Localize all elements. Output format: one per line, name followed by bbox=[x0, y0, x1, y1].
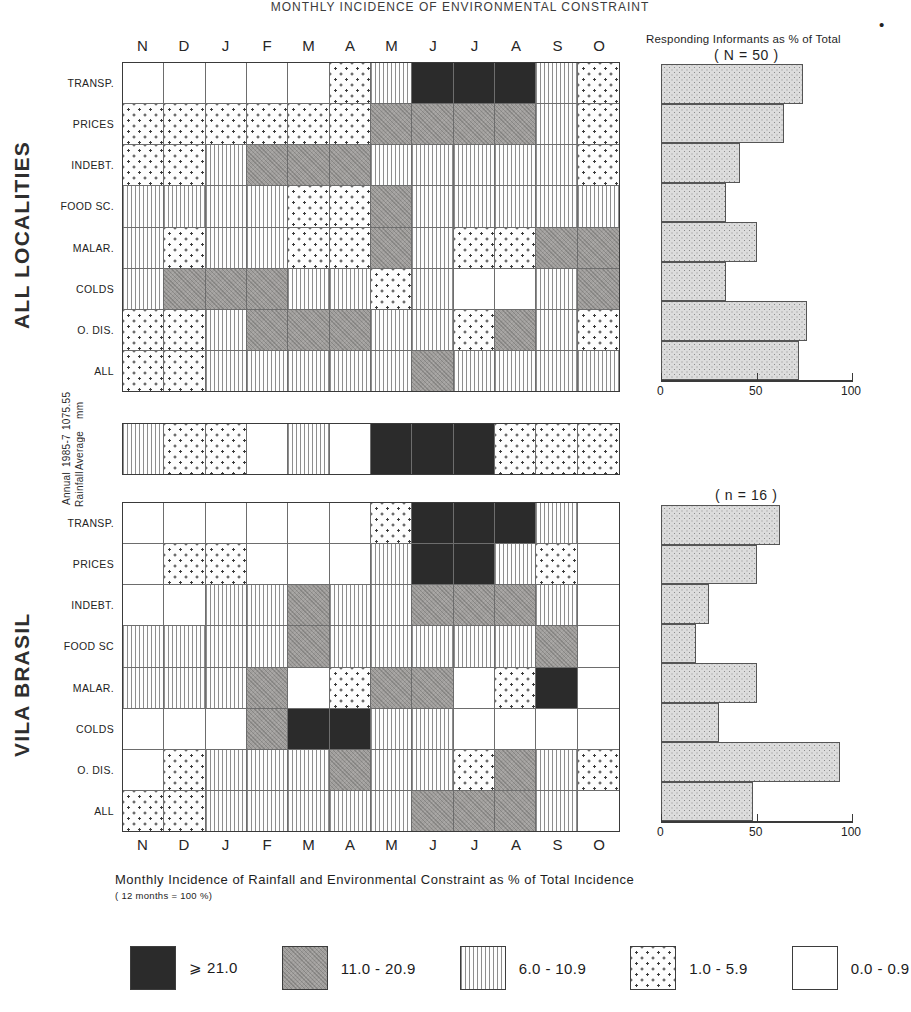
heatmap-cell bbox=[123, 544, 164, 585]
month-label-9: A bbox=[496, 836, 538, 853]
month-header-top: NDJFMAMJJASO bbox=[122, 37, 620, 54]
heatmap-cell bbox=[371, 145, 412, 186]
heatmap-cell bbox=[578, 750, 619, 791]
heatmap-cell bbox=[247, 626, 288, 667]
heatmap-cell bbox=[164, 585, 205, 626]
heatmap-cell bbox=[164, 269, 205, 310]
bar bbox=[661, 782, 753, 822]
bar-chart-all-localities bbox=[661, 64, 891, 380]
heatmap-cell bbox=[578, 351, 619, 391]
month-label-11: O bbox=[579, 836, 621, 853]
heatmap-cell bbox=[206, 104, 247, 145]
heatmap-cell bbox=[536, 351, 577, 391]
bar-axis-label-50-top: 50 bbox=[749, 384, 762, 398]
rainfall-cell bbox=[288, 424, 329, 474]
row-label-6: O. DIS. bbox=[40, 310, 120, 351]
month-label-9: A bbox=[496, 37, 538, 54]
heatmap-cell bbox=[412, 228, 453, 269]
heatmap-cell bbox=[330, 791, 371, 831]
heatmap-cell bbox=[123, 228, 164, 269]
heatmap-cell bbox=[330, 544, 371, 585]
heatmap-cell bbox=[247, 228, 288, 269]
bar-row bbox=[661, 262, 891, 302]
heatmap-cell bbox=[288, 750, 329, 791]
heatmap-grid-vila-brasil bbox=[122, 502, 620, 832]
heatmap-cell bbox=[536, 750, 577, 791]
rainfall-cell bbox=[536, 424, 577, 474]
heatmap-cell bbox=[206, 791, 247, 831]
heatmap-cell bbox=[371, 626, 412, 667]
heatmap-cell bbox=[288, 310, 329, 351]
heatmap-cell bbox=[330, 626, 371, 667]
heatmap-cell bbox=[454, 544, 495, 585]
heatmap-cell bbox=[330, 503, 371, 544]
heatmap-cell bbox=[123, 351, 164, 391]
heatmap-cell bbox=[123, 750, 164, 791]
heatmap-cell bbox=[412, 585, 453, 626]
heatmap-cell bbox=[164, 709, 205, 750]
month-label-4: M bbox=[288, 37, 330, 54]
rainfall-cell bbox=[412, 424, 453, 474]
bar-row bbox=[661, 505, 891, 545]
heatmap-cell bbox=[206, 709, 247, 750]
heatmap-cell bbox=[495, 585, 536, 626]
bar-row bbox=[661, 104, 891, 144]
heatmap-cell bbox=[495, 63, 536, 104]
rainfall-cell bbox=[578, 424, 619, 474]
heatmap-cell bbox=[206, 63, 247, 104]
month-label-8: J bbox=[454, 836, 496, 853]
heatmap-cell bbox=[578, 104, 619, 145]
heatmap-cell bbox=[371, 351, 412, 391]
heatmap-cell bbox=[288, 269, 329, 310]
heatmap-cell bbox=[371, 310, 412, 351]
month-label-10: S bbox=[537, 37, 579, 54]
heatmap-cell bbox=[164, 668, 205, 709]
legend-swatch-gray bbox=[282, 946, 328, 990]
heatmap-cell bbox=[536, 310, 577, 351]
heatmap-cell bbox=[330, 585, 371, 626]
heatmap-cell bbox=[123, 145, 164, 186]
bar-row bbox=[661, 742, 891, 782]
bar-axis-tick-0-bottom bbox=[661, 814, 662, 822]
heatmap-cell bbox=[247, 145, 288, 186]
row-label-2: INDEBT. bbox=[40, 145, 120, 186]
bar-row bbox=[661, 663, 891, 703]
heatmap-cell bbox=[536, 709, 577, 750]
bar-row bbox=[661, 143, 891, 183]
month-label-8: J bbox=[454, 37, 496, 54]
heatmap-cell bbox=[164, 503, 205, 544]
heatmap-cell bbox=[412, 104, 453, 145]
heatmap-cell bbox=[412, 145, 453, 186]
heatmap-cell bbox=[164, 104, 205, 145]
heatmap-cell bbox=[454, 63, 495, 104]
heatmap-cell bbox=[578, 585, 619, 626]
month-label-4: M bbox=[288, 836, 330, 853]
heatmap-cell bbox=[495, 351, 536, 391]
bar bbox=[661, 742, 840, 782]
heatmap-cell bbox=[371, 791, 412, 831]
heatmap-cell bbox=[330, 104, 371, 145]
bar bbox=[661, 505, 780, 545]
heatmap-cell bbox=[412, 791, 453, 831]
heatmap-cell bbox=[578, 145, 619, 186]
heatmap-cell bbox=[247, 750, 288, 791]
bar-chart-vila-brasil bbox=[661, 505, 891, 821]
legend-swatch-dots bbox=[630, 946, 676, 990]
heatmap-cell bbox=[371, 269, 412, 310]
heatmap-cell bbox=[206, 310, 247, 351]
bar-row bbox=[661, 183, 891, 223]
heatmap-cell bbox=[247, 585, 288, 626]
bar bbox=[661, 104, 784, 144]
heatmap-cell bbox=[330, 145, 371, 186]
row-label-3: FOOD SC. bbox=[40, 186, 120, 227]
heatmap-cell bbox=[578, 228, 619, 269]
heatmap-cell bbox=[495, 269, 536, 310]
heatmap-cell bbox=[578, 503, 619, 544]
heatmap-cell bbox=[412, 709, 453, 750]
heatmap-cell bbox=[371, 503, 412, 544]
legend: ⩾ 21.011.0 - 20.96.0 - 10.91.0 - 5.90.0 … bbox=[130, 946, 911, 990]
heatmap-cell bbox=[206, 228, 247, 269]
rainfall-cell bbox=[123, 424, 164, 474]
month-footer-bottom: NDJFMAMJJASO bbox=[122, 836, 620, 853]
heatmap-cell bbox=[123, 269, 164, 310]
